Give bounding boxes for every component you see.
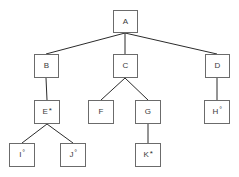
tree-node-b[interactable]: B — [34, 54, 59, 78]
tree-node-marker-j: ° — [74, 149, 77, 156]
tree-node-marker-k: * — [150, 150, 153, 158]
tree-node-label-d: D — [214, 62, 220, 70]
tree-edge-c-g — [125, 78, 148, 100]
tree-node-f[interactable]: F — [88, 100, 114, 124]
tree-node-g[interactable]: G — [135, 100, 161, 124]
tree-node-c[interactable]: C — [113, 54, 138, 78]
tree-node-d[interactable]: D — [205, 54, 230, 78]
tree-edge-a-d — [125, 33, 217, 54]
tree-node-e[interactable]: E* — [34, 100, 60, 124]
tree-edge-a-b — [46, 33, 125, 54]
tree-node-i[interactable]: I° — [9, 143, 35, 167]
tree-node-h[interactable]: H° — [204, 100, 230, 124]
tree-node-label-h: H — [213, 108, 219, 116]
tree-node-marker-h: ° — [219, 106, 222, 113]
tree-edge-e-j — [47, 124, 73, 143]
tree-node-label-a: A — [123, 18, 129, 26]
tree-node-label-f: F — [98, 108, 103, 116]
tree-node-label-k: K — [144, 151, 150, 159]
tree-node-label-e: E — [43, 108, 49, 116]
tree-node-a[interactable]: A — [113, 10, 138, 33]
tree-edge-c-f — [101, 78, 125, 100]
tree-node-label-j: J — [69, 151, 73, 159]
tree-node-label-c: C — [122, 62, 128, 70]
tree-edge-e-i — [22, 124, 47, 143]
tree-node-j[interactable]: J° — [60, 143, 86, 167]
tree-node-label-b: B — [44, 62, 50, 70]
tree-edge-b-e — [46, 78, 47, 100]
tree-node-marker-e: * — [49, 107, 52, 115]
tree-node-label-g: G — [145, 108, 152, 116]
tree-diagram: ABCDE*FGH°I°J°K* — [0, 0, 239, 177]
tree-node-k[interactable]: K* — [135, 143, 161, 167]
tree-node-marker-i: ° — [22, 149, 25, 156]
